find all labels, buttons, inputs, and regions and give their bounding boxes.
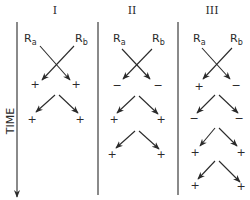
minus-sign: − [153, 79, 162, 92]
split-arrows: −− [189, 95, 243, 125]
column-header: I [53, 4, 57, 17]
time-axis-label: TIME [4, 108, 17, 135]
cross-arrow-a [40, 46, 70, 80]
cross-arrow-b [123, 49, 152, 79]
plus-sign: + [236, 180, 245, 193]
plus-sign: + [194, 80, 203, 93]
reactant-b-label: Rb [75, 32, 88, 47]
arrow-right [139, 131, 159, 149]
arrow-left [198, 161, 215, 179]
split-arrows: ++ [107, 131, 165, 161]
plus-sign: + [27, 113, 36, 126]
time-axis: TIME [4, 22, 17, 197]
arrow-left [117, 96, 135, 113]
column-2: IIRaRb−−++++ [107, 4, 165, 161]
reaction-diagram: TIME IRaRb++++IIRaRb−−++++IIIRaRb+−−−+++… [0, 0, 250, 200]
cross-arrow-a [202, 48, 230, 79]
cross-arrow-a [122, 49, 150, 79]
reactant-b-label: Rb [152, 32, 165, 47]
split-arrows: ++ [109, 96, 165, 126]
split-arrows: ++ [190, 161, 245, 193]
plus-sign: + [236, 146, 245, 159]
plus-sign: + [190, 179, 199, 192]
cross-arrow-b [42, 46, 74, 80]
minus-sign: − [231, 79, 240, 92]
reactant-b-label: Rb [230, 32, 243, 47]
split-arrows: ++ [27, 95, 84, 126]
arrow-left [200, 128, 215, 146]
arrow-left [116, 131, 135, 148]
minus-sign: − [234, 112, 243, 125]
plus-sign: + [75, 113, 84, 126]
arrow-left [36, 95, 55, 112]
plus-sign: + [109, 113, 118, 126]
column-header: III [205, 4, 218, 17]
columns: IRaRb++++IIRaRb−−++++IIIRaRb+−−−++++ [24, 4, 246, 193]
column-dividers [98, 22, 178, 195]
column-header: II [128, 4, 137, 17]
arrow-right [219, 128, 237, 146]
reactant-a-label: Ra [24, 32, 37, 47]
reactant-a-label: Ra [113, 32, 126, 47]
column-3: IIIRaRb+−−−++++ [189, 4, 245, 193]
reactant-a-label: Ra [193, 32, 206, 47]
plus-sign: + [71, 78, 80, 91]
minus-sign: − [112, 79, 121, 92]
arrow-right [219, 161, 240, 182]
minus-sign: − [189, 112, 198, 125]
arrow-right [59, 95, 78, 113]
plus-sign: + [107, 148, 116, 161]
plus-sign: + [156, 113, 165, 126]
column-1: IRaRb++++ [24, 4, 88, 126]
plus-sign: + [190, 146, 199, 159]
arrow-right [219, 95, 238, 113]
arrow-right [139, 96, 158, 114]
cross-arrow-b [203, 48, 232, 79]
plus-sign: + [30, 78, 39, 91]
split-arrows: ++ [190, 128, 245, 159]
arrow-left [197, 95, 215, 113]
plus-sign: + [156, 148, 165, 161]
